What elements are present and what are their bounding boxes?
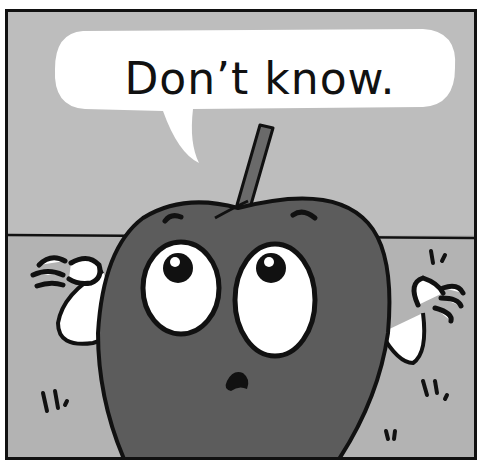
apple-stem-icon — [237, 125, 273, 208]
comic-panel: Don’t know. — [5, 9, 477, 460]
left-pupil — [163, 253, 193, 283]
speech-bubble-text: Don’t know. — [60, 38, 460, 118]
